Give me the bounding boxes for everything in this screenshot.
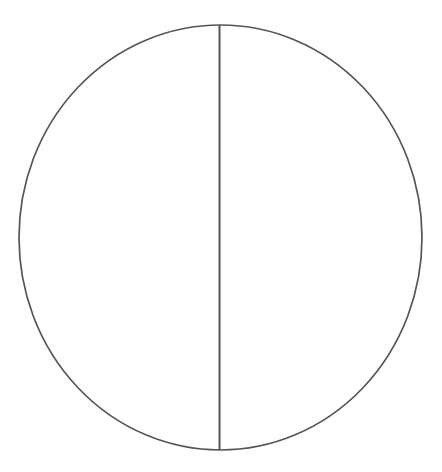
figure-svg: [0, 0, 442, 472]
canvas-background: [0, 0, 442, 472]
drawing-canvas: [0, 0, 442, 472]
